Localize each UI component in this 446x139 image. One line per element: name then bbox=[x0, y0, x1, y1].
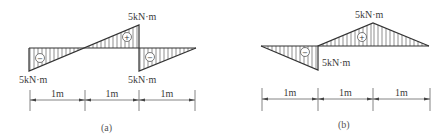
arrow-left-icon bbox=[30, 99, 36, 102]
svg-text:−: − bbox=[302, 49, 308, 57]
arrow-left-icon bbox=[85, 99, 91, 102]
arrow-right-icon bbox=[79, 99, 85, 102]
arrow-left-icon bbox=[262, 98, 268, 101]
dimension-line: 1m1m1m bbox=[262, 87, 430, 111]
figure-a: −+−5kN·m5kN·m5kN·m1m1m1m(a) bbox=[19, 11, 196, 134]
arrow-left-icon bbox=[318, 98, 324, 101]
span-length-label: 1m bbox=[161, 88, 174, 99]
span-length-label: 1m bbox=[106, 88, 119, 99]
arrow-left-icon bbox=[373, 98, 379, 101]
arrow-right-icon bbox=[312, 98, 318, 101]
span-length-label: 1m bbox=[51, 88, 64, 99]
figure-b: −+5kN·m5kN·m1m1m1m(b) bbox=[261, 9, 430, 131]
negative-sign-icon: − bbox=[301, 48, 310, 57]
dimension-line: 1m1m1m bbox=[30, 88, 195, 111]
moment-value-label: 5kN·m bbox=[128, 74, 157, 85]
span-length-label: 1m bbox=[339, 87, 352, 98]
svg-text:+: + bbox=[124, 34, 130, 42]
figure-caption: (b) bbox=[338, 119, 350, 131]
moment-value-label: 5kN·m bbox=[322, 57, 351, 68]
span-length-label: 1m bbox=[284, 87, 297, 98]
svg-text:+: + bbox=[359, 34, 365, 42]
moment-value-label: 5kN·m bbox=[355, 9, 384, 20]
arrow-left-icon bbox=[139, 99, 145, 102]
arrow-right-icon bbox=[189, 99, 195, 102]
positive-sign-icon: + bbox=[358, 33, 367, 42]
arrow-right-icon bbox=[424, 98, 430, 101]
negative-sign-icon: − bbox=[146, 53, 155, 62]
arrow-right-icon bbox=[133, 99, 139, 102]
arrow-right-icon bbox=[367, 98, 373, 101]
figure-caption: (a) bbox=[101, 122, 112, 134]
moment-value-label: 5kN·m bbox=[128, 11, 157, 22]
svg-text:−: − bbox=[37, 55, 43, 63]
moment-value-label: 5kN·m bbox=[19, 74, 48, 85]
negative-sign-icon: − bbox=[36, 54, 45, 63]
span-length-label: 1m bbox=[395, 87, 408, 98]
bending-moment-diagrams: −+−5kN·m5kN·m5kN·m1m1m1m(a)−+5kN·m5kN·m1… bbox=[0, 0, 446, 139]
svg-text:−: − bbox=[147, 54, 153, 62]
positive-sign-icon: + bbox=[123, 33, 132, 42]
